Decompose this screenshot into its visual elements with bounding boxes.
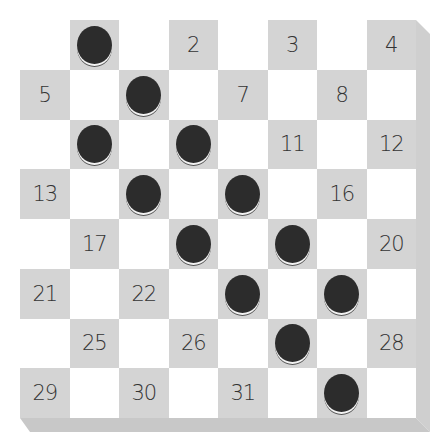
board-square[interactable]: 25 <box>70 319 120 369</box>
board-square[interactable]: 11 <box>268 120 318 170</box>
board-square[interactable]: 21 <box>20 269 70 319</box>
board-square[interactable] <box>20 120 70 170</box>
board-square[interactable] <box>268 368 318 418</box>
board-square[interactable]: 5 <box>20 70 70 120</box>
board-square[interactable] <box>367 269 417 319</box>
board-square[interactable] <box>169 368 219 418</box>
board-square[interactable] <box>218 319 268 369</box>
square-number: 31 <box>230 381 255 405</box>
board-square[interactable] <box>119 70 169 120</box>
board-square[interactable] <box>169 120 219 170</box>
board-square[interactable] <box>70 169 120 219</box>
board-square[interactable]: 31 <box>218 368 268 418</box>
board-square[interactable] <box>218 269 268 319</box>
board-square[interactable] <box>218 219 268 269</box>
board-square[interactable] <box>70 120 120 170</box>
board-square[interactable]: 17 <box>70 219 120 269</box>
board-square[interactable] <box>317 120 367 170</box>
board-square[interactable] <box>218 120 268 170</box>
square-number: 7 <box>237 83 249 107</box>
square-number: 13 <box>32 182 57 206</box>
board-square[interactable]: 16 <box>317 169 367 219</box>
checker-piece[interactable] <box>275 324 310 362</box>
board-square[interactable] <box>169 169 219 219</box>
board-square[interactable] <box>169 219 219 269</box>
board-square[interactable] <box>169 70 219 120</box>
board-square[interactable] <box>119 169 169 219</box>
board-square[interactable]: 7 <box>218 70 268 120</box>
board-bevel-right <box>416 20 430 432</box>
board-square[interactable]: 20 <box>367 219 417 269</box>
board-square[interactable] <box>20 20 70 70</box>
square-number: 11 <box>280 132 305 156</box>
square-number: 28 <box>379 331 404 355</box>
square-number: 20 <box>379 232 404 256</box>
checkerboard: 2345781112131617202122252628293031 <box>20 20 416 418</box>
checker-piece[interactable] <box>126 76 161 114</box>
board-square[interactable] <box>119 319 169 369</box>
board-square[interactable] <box>268 319 318 369</box>
checker-piece[interactable] <box>225 175 260 213</box>
board-square[interactable] <box>20 319 70 369</box>
square-number: 3 <box>286 33 298 57</box>
checker-piece[interactable] <box>275 225 310 263</box>
board-square[interactable] <box>119 120 169 170</box>
board-bevel-bottom <box>20 418 430 432</box>
board-square[interactable] <box>317 368 367 418</box>
board-square[interactable]: 28 <box>367 319 417 369</box>
board-square[interactable]: 4 <box>367 20 417 70</box>
square-number: 25 <box>82 331 107 355</box>
checker-piece[interactable] <box>176 125 211 163</box>
checker-piece[interactable] <box>77 26 112 64</box>
board-square[interactable]: 12 <box>367 120 417 170</box>
board-square[interactable] <box>169 269 219 319</box>
square-number: 12 <box>379 132 404 156</box>
checker-piece[interactable] <box>126 175 161 213</box>
board-square[interactable]: 30 <box>119 368 169 418</box>
board-square[interactable] <box>119 20 169 70</box>
square-number: 5 <box>39 83 51 107</box>
square-number: 17 <box>82 232 107 256</box>
square-number: 30 <box>131 381 156 405</box>
board-square[interactable] <box>317 319 367 369</box>
checker-piece[interactable] <box>77 125 112 163</box>
board-square[interactable] <box>268 169 318 219</box>
board-square[interactable]: 2 <box>169 20 219 70</box>
board-square[interactable]: 8 <box>317 70 367 120</box>
board-square[interactable] <box>367 70 417 120</box>
board-square[interactable] <box>218 169 268 219</box>
board-square[interactable] <box>268 269 318 319</box>
board-square[interactable] <box>20 219 70 269</box>
square-number: 16 <box>329 182 354 206</box>
checker-piece[interactable] <box>324 275 359 313</box>
board-square[interactable]: 26 <box>169 319 219 369</box>
board-square[interactable] <box>317 269 367 319</box>
square-number: 22 <box>131 282 156 306</box>
board-square[interactable] <box>367 368 417 418</box>
square-number: 21 <box>32 282 57 306</box>
board-square[interactable] <box>70 20 120 70</box>
board-square[interactable] <box>119 219 169 269</box>
board-square[interactable] <box>70 70 120 120</box>
board-square[interactable]: 22 <box>119 269 169 319</box>
square-number: 4 <box>385 33 397 57</box>
square-number: 2 <box>187 33 199 57</box>
board-square[interactable]: 3 <box>268 20 318 70</box>
board-square[interactable] <box>70 269 120 319</box>
board-square[interactable] <box>367 169 417 219</box>
board-square[interactable] <box>268 70 318 120</box>
board-square[interactable] <box>317 219 367 269</box>
board-square[interactable] <box>70 368 120 418</box>
checker-piece[interactable] <box>176 225 211 263</box>
checker-piece[interactable] <box>324 374 359 412</box>
square-number: 26 <box>181 331 206 355</box>
checker-piece[interactable] <box>225 275 260 313</box>
board-square[interactable]: 29 <box>20 368 70 418</box>
board-square[interactable] <box>268 219 318 269</box>
square-number: 8 <box>336 83 348 107</box>
board-square[interactable]: 13 <box>20 169 70 219</box>
board-square[interactable] <box>218 20 268 70</box>
square-number: 29 <box>32 381 57 405</box>
board-square[interactable] <box>317 20 367 70</box>
